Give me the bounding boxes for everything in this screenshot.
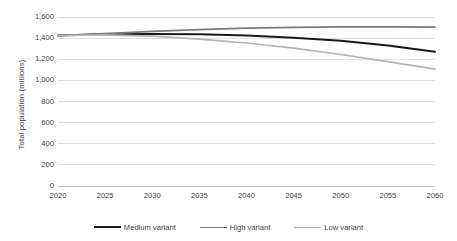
y-axis-tick-labels: 02004006008001,0001,2001,4001,600 — [4, 0, 54, 241]
y-tick-label: 1,400 — [8, 33, 54, 42]
x-tick-label: 2040 — [227, 191, 267, 200]
x-tick-label: 2055 — [368, 191, 408, 200]
y-tick-label: 0 — [8, 181, 54, 190]
series-line-2 — [58, 35, 435, 69]
x-tick-label: 2030 — [132, 191, 172, 200]
legend-line-swatch — [94, 226, 121, 228]
legend-label: Medium variant — [124, 223, 176, 232]
legend-item-low-variant[interactable]: Low variant — [294, 223, 363, 232]
plot-area — [58, 17, 435, 186]
legend-label: High variant — [230, 223, 271, 232]
x-tick-label: 2060 — [415, 191, 455, 200]
x-tick-label: 2025 — [85, 191, 125, 200]
legend-line-swatch — [200, 227, 227, 228]
x-axis-tick-labels: 202020252030203520402045205020552060 — [58, 191, 435, 205]
population-projection-chart: Total population (millions) 020040060080… — [0, 0, 457, 241]
legend-item-medium-variant[interactable]: Medium variant — [94, 223, 176, 232]
chart-legend: Medium variantHigh variantLow variant — [0, 219, 457, 235]
legend-line-swatch — [294, 227, 321, 228]
y-tick-label: 400 — [8, 139, 54, 148]
x-tick-label: 2050 — [321, 191, 361, 200]
y-tick-label: 200 — [8, 160, 54, 169]
y-tick-label: 1,600 — [8, 12, 54, 21]
x-tick-label: 2045 — [274, 191, 314, 200]
y-tick-label: 800 — [8, 97, 54, 106]
x-tick-label: 2035 — [179, 191, 219, 200]
x-tick-label: 2020 — [38, 191, 78, 200]
y-tick-label: 600 — [8, 118, 54, 127]
legend-label: Low variant — [324, 223, 363, 232]
plot-canvas — [58, 17, 435, 186]
legend-item-high-variant[interactable]: High variant — [200, 223, 271, 232]
y-tick-label: 1,200 — [8, 54, 54, 63]
y-tick-label: 1,000 — [8, 75, 54, 84]
